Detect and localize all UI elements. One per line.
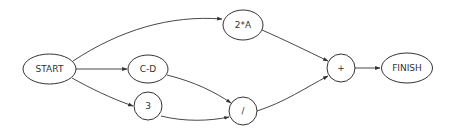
edge-start-to-three [72,78,133,106]
node-label: + [337,63,345,73]
node-cd: C-D [128,55,168,83]
node-label: FINISH [392,63,422,73]
node-finish: FINISH [382,53,433,83]
node-label: C-D [140,64,157,74]
node-start: START [23,54,76,84]
edge-div-to-plus [257,76,328,111]
node-label: 3 [145,101,151,111]
node-label: 2*A [235,20,252,30]
edge-cd-to-div [167,75,231,103]
flow-diagram: STARTC-D32*A/+FINISH [0,0,457,137]
node-plus: + [327,54,355,82]
node-twoA: 2*A [223,10,263,40]
node-div: / [229,97,257,125]
node-label: START [36,64,64,74]
nodes-group: STARTC-D32*A/+FINISH [23,10,433,125]
edge-twoA-to-plus [262,30,328,61]
node-three: 3 [134,92,162,120]
edge-three-to-div [161,116,229,120]
